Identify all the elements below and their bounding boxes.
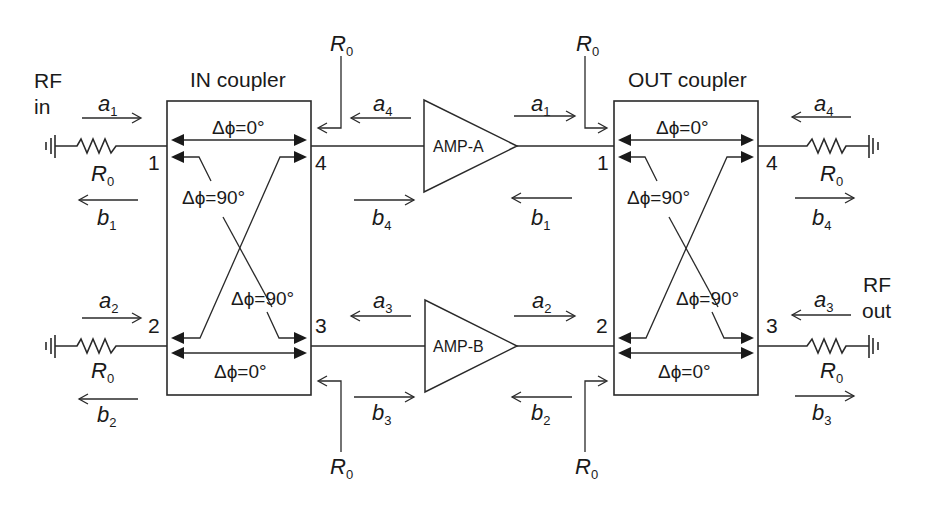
- ground-icon: [46, 135, 55, 158]
- in-coupler-title: IN coupler: [190, 68, 286, 91]
- wave-b1-out: b1: [512, 193, 572, 233]
- svg-text:b4: b4: [372, 205, 391, 233]
- wave-a4-in: a4: [351, 91, 411, 123]
- r0-probe-in3: R0: [318, 376, 353, 482]
- svg-text:a1: a1: [98, 91, 117, 119]
- port-1-label: 1: [597, 151, 609, 174]
- svg-text:R0: R0: [330, 454, 353, 482]
- svg-text:b1: b1: [97, 205, 116, 233]
- balanced-amplifier-diagram: RF in R0 a1 b1 R0 a2: [0, 0, 930, 506]
- svg-text:in: in: [34, 95, 50, 118]
- resistor-label: R0: [91, 358, 114, 386]
- port-3-label: 3: [315, 314, 327, 337]
- resistor-label: R0: [91, 161, 114, 189]
- resistor-icon: [758, 339, 869, 353]
- svg-text:b1: b1: [531, 205, 550, 233]
- ground-icon: [46, 335, 55, 358]
- rf-out-label: RF out: [862, 273, 891, 322]
- r0-probe-out1: R0: [576, 31, 607, 133]
- ground-icon: [869, 335, 878, 358]
- wave-a4-out: a4: [792, 91, 851, 122]
- port-2-label: 2: [148, 314, 160, 337]
- r0-probe-out2: R0: [575, 376, 607, 482]
- svg-text:a2: a2: [99, 288, 118, 316]
- wave-a3-out: a3: [792, 287, 851, 320]
- wave-a1-in: a1: [82, 91, 141, 123]
- svg-text:a3: a3: [373, 288, 392, 316]
- svg-text:a1: a1: [531, 91, 550, 119]
- svg-text:Δϕ=90°: Δϕ=90°: [231, 288, 294, 309]
- svg-text:Δϕ=90°: Δϕ=90°: [676, 288, 739, 309]
- svg-text:b3: b3: [372, 400, 391, 428]
- wave-b2-in: b2: [79, 394, 138, 430]
- svg-text:AMP-A: AMP-A: [433, 138, 484, 155]
- port-2-label: 2: [596, 314, 608, 337]
- r0-probe-in4: R0: [318, 31, 353, 133]
- svg-text:AMP-B: AMP-B: [433, 338, 484, 355]
- svg-text:a4: a4: [814, 91, 833, 119]
- ground-icon: [869, 135, 878, 158]
- wave-b4-out: b4: [795, 193, 854, 233]
- wave-b3-out: b3: [795, 391, 854, 428]
- wave-a2-in: a2: [82, 288, 141, 323]
- svg-text:Δϕ=0°: Δϕ=0°: [214, 361, 267, 382]
- svg-text:Δϕ=0°: Δϕ=0°: [658, 361, 711, 382]
- svg-text:Δϕ=0°: Δϕ=0°: [656, 117, 709, 138]
- svg-text:b2: b2: [531, 400, 550, 428]
- svg-text:R0: R0: [576, 31, 599, 59]
- svg-text:b3: b3: [812, 400, 831, 428]
- port-1-label: 1: [148, 151, 160, 174]
- svg-text:Δϕ=0°: Δϕ=0°: [212, 117, 265, 138]
- wave-a3-in: a3: [351, 288, 411, 321]
- svg-text:R0: R0: [575, 454, 598, 482]
- out-coupler-title: OUT coupler: [628, 68, 747, 91]
- out-coupler: OUT coupler 1 2 4 3 Δϕ=0° Δϕ=90° Δϕ=90° …: [596, 68, 778, 395]
- svg-text:a3: a3: [814, 287, 833, 315]
- wave-b4-in: b4: [354, 195, 414, 233]
- wave-a1-out: a1: [514, 91, 575, 121]
- svg-text:a2: a2: [532, 288, 551, 316]
- port3-termination: R0: [758, 335, 878, 386]
- rf-in-label: RF in: [34, 69, 62, 118]
- wave-a2-out: a2: [514, 288, 575, 321]
- wave-b3-in: b3: [354, 392, 414, 428]
- svg-text:RF: RF: [34, 69, 62, 92]
- svg-text:a4: a4: [373, 91, 392, 119]
- amp-a: AMP-A: [424, 100, 517, 192]
- svg-text:Δϕ=90°: Δϕ=90°: [182, 187, 245, 208]
- in-coupler: IN coupler 1 2 4 3 Δϕ=0° Δϕ=90° Δϕ=90° Δ…: [148, 68, 327, 395]
- svg-text:b4: b4: [812, 205, 831, 233]
- svg-text:b2: b2: [97, 402, 116, 430]
- resistor-icon: [55, 339, 167, 353]
- svg-text:R0: R0: [330, 31, 353, 59]
- amp-b: AMP-B: [425, 300, 517, 392]
- resistor-label: R0: [820, 161, 843, 189]
- svg-text:out: out: [862, 299, 891, 322]
- port-3-label: 3: [766, 314, 778, 337]
- port2-termination: R0: [46, 335, 167, 386]
- wave-b2-out: b2: [512, 392, 572, 428]
- port-4-label: 4: [315, 151, 327, 174]
- wave-b1-in: b1: [79, 195, 138, 233]
- svg-text:RF: RF: [863, 273, 891, 296]
- resistor-label: R0: [820, 358, 843, 386]
- svg-text:Δϕ=90°: Δϕ=90°: [627, 187, 690, 208]
- port-4-label: 4: [766, 151, 778, 174]
